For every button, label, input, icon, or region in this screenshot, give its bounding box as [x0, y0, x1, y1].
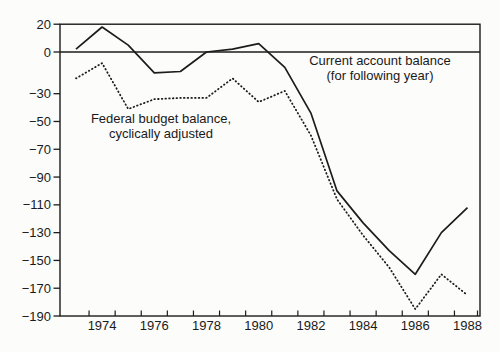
x-tick-label: 1976	[140, 318, 169, 333]
x-tick-label: 1974	[88, 318, 117, 333]
federal-budget-line	[76, 63, 468, 309]
annotation-current-account-line2: (for following year)	[292, 68, 468, 83]
x-tick-label: 1986	[401, 318, 430, 333]
y-tick-label: 0	[44, 45, 51, 60]
annotation-federal-budget: Federal budget balance, cyclically adjus…	[82, 111, 240, 141]
y-tick-label: −30	[29, 86, 51, 101]
x-tick-label: 1978	[192, 318, 221, 333]
x-tick-label: 1984	[349, 318, 378, 333]
annotation-current-account: Current account balance (for following y…	[292, 53, 468, 83]
y-tick-label: −70	[29, 142, 51, 157]
x-tick-label: 1988	[453, 318, 482, 333]
y-tick-label: −50	[29, 114, 51, 129]
x-tick-label: 1982	[296, 318, 325, 333]
y-tick-label: −170	[22, 281, 51, 296]
y-tick-label: −190	[22, 309, 51, 324]
y-tick-label: 20	[37, 17, 51, 32]
y-tick-label: −130	[22, 225, 51, 240]
x-tick-label: 1980	[244, 318, 273, 333]
annotation-current-account-line1: Current account balance	[292, 53, 468, 68]
y-tick-label: −90	[29, 170, 51, 185]
y-tick-label: −150	[22, 253, 51, 268]
annotation-federal-budget-line2: cyclically adjusted	[82, 126, 240, 141]
twin-deficits-chart: 200−30−50−70−90−110−130−150−170−19019741…	[0, 0, 500, 352]
annotation-federal-budget-line1: Federal budget balance,	[82, 111, 240, 126]
y-tick-label: −110	[23, 197, 51, 212]
